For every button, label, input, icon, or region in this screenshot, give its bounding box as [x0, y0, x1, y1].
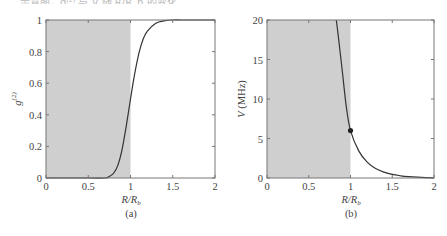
x-tick-label: 0.5	[302, 181, 315, 192]
panel-a-plot: 00.511.5200.20.40.60.81 g(2) R/Rb (a)	[10, 15, 218, 220]
y-tick-label: 5	[258, 134, 263, 145]
panel-a-y-axis-label: g(2)	[10, 92, 23, 106]
y-tick-label: 0.6	[29, 78, 42, 89]
x-tick-label: 1	[348, 181, 353, 192]
panel-a-x-axis-label: R/Rb	[120, 194, 141, 207]
panel-a-label: (a)	[125, 208, 137, 220]
panel-a-shaded-region	[46, 20, 131, 178]
panel-b-label: (b)	[345, 208, 358, 220]
y-tick-label: 0.4	[29, 110, 43, 121]
y-tick-label: 15	[253, 55, 264, 66]
figure: 00.511.5200.20.40.60.81 g(2) R/Rb (a) 00…	[0, 0, 447, 236]
x-tick-label: 1.5	[386, 181, 399, 192]
panel-b-y-axis-label: V (MHz)	[236, 80, 248, 118]
x-tick-label: 1	[128, 181, 133, 192]
x-tick-label: 2	[431, 181, 436, 192]
x-tick-label: 0	[43, 181, 48, 192]
panel-b-marker-point	[348, 128, 353, 133]
x-tick-label: 0	[264, 181, 269, 192]
y-tick-label: 20	[253, 15, 264, 26]
x-tick-label: 1.5	[166, 181, 179, 192]
x-tick-label: 2	[212, 181, 217, 192]
y-tick-label: 0.8	[29, 47, 42, 58]
y-tick-label: 0	[258, 173, 263, 184]
y-tick-label: 0	[37, 173, 42, 184]
y-tick-label: 1	[37, 15, 42, 26]
y-tick-label: 10	[253, 94, 264, 105]
panel-b-curve	[336, 20, 434, 178]
panel-b-shaded-region	[267, 20, 351, 178]
y-tick-label: 0.2	[29, 141, 42, 152]
panel-b-x-axis-label: R/Rb	[340, 194, 361, 207]
panel-b-plot: 00.511.5205101520 V (MHz) R/Rb (b)	[236, 15, 437, 220]
x-tick-label: 0.5	[82, 181, 95, 192]
